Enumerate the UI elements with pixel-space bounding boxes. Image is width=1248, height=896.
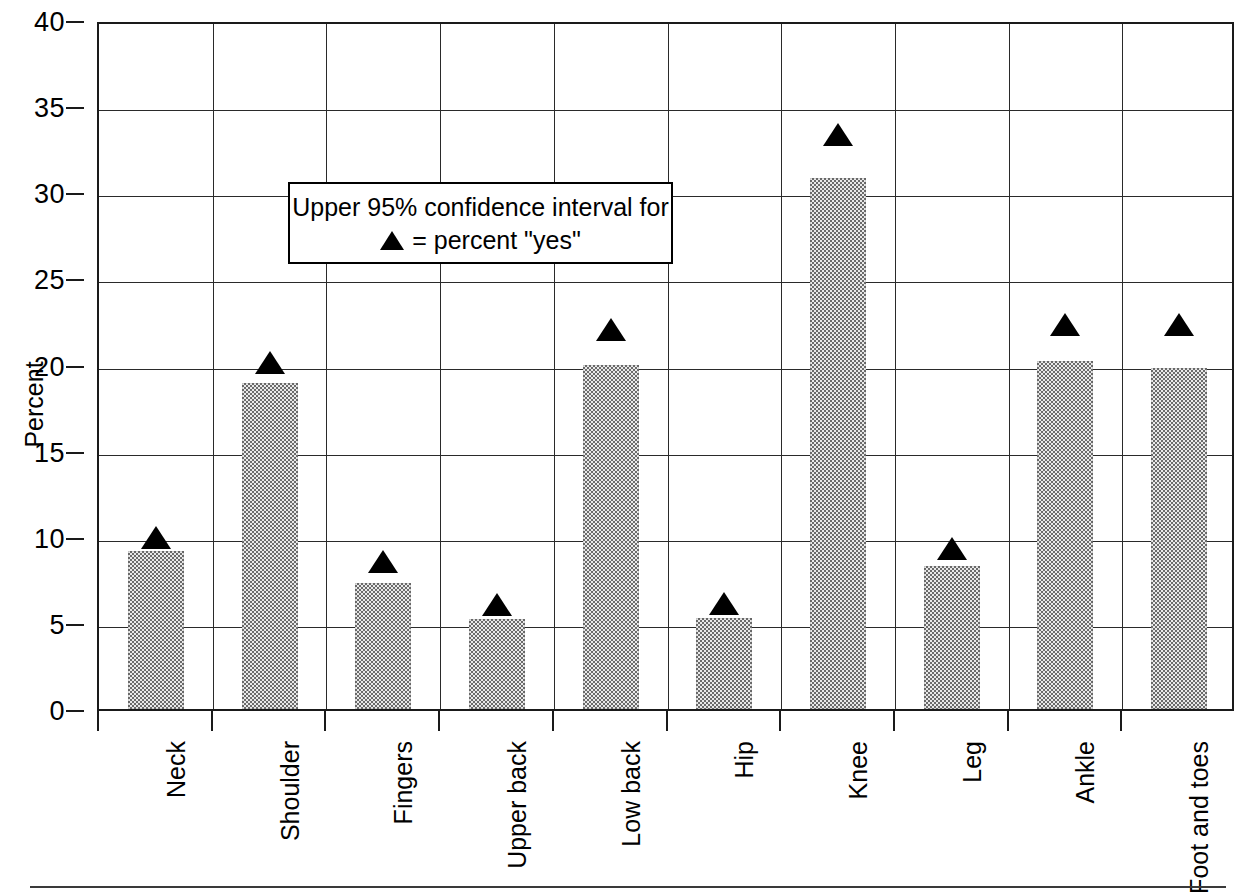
gridline-vertical xyxy=(213,24,214,709)
x-tick-label-foot-and-toes: Foot and toes xyxy=(1187,741,1212,894)
y-tick-mark xyxy=(66,538,84,540)
gridline-vertical xyxy=(668,24,669,709)
x-axis: NeckShoulderFingersUpper backLow backHip… xyxy=(97,711,1234,871)
bar-upper-back xyxy=(469,619,525,709)
y-tick-label: 20 xyxy=(34,353,65,380)
ci-marker-neck xyxy=(141,526,171,549)
x-tick-label-fingers: Fingers xyxy=(391,741,416,824)
legend: Upper 95% confidence interval for = perc… xyxy=(288,182,673,264)
x-tick-mark xyxy=(1120,711,1122,731)
bar-leg xyxy=(924,566,980,709)
x-tick-label-knee: Knee xyxy=(846,741,871,799)
bottom-divider xyxy=(30,886,1226,888)
y-tick-label: 40 xyxy=(34,9,65,36)
gridline-horizontal xyxy=(99,110,1232,111)
x-tick-label-shoulder: Shoulder xyxy=(278,741,303,841)
y-tick-label: 5 xyxy=(49,611,65,638)
gridline-vertical xyxy=(1122,24,1123,709)
y-tick-label: 15 xyxy=(34,439,65,466)
gridline-vertical xyxy=(1009,24,1010,709)
y-tick-label: 10 xyxy=(34,525,65,552)
ci-marker-fingers xyxy=(368,550,398,573)
x-tick-mark xyxy=(438,711,440,731)
bar-low-back xyxy=(583,365,639,710)
y-tick-mark xyxy=(66,710,84,712)
ci-marker-hip xyxy=(709,592,739,615)
gridline-vertical xyxy=(440,24,441,709)
y-tick-label: 35 xyxy=(34,95,65,122)
y-tick-mark xyxy=(66,107,84,109)
x-tick-label-upper-back: Upper back xyxy=(505,741,530,869)
plot-area: Upper 95% confidence interval for = perc… xyxy=(97,22,1234,711)
bar-knee xyxy=(810,178,866,709)
ci-marker-foot-and-toes xyxy=(1164,313,1194,336)
gridline-vertical xyxy=(895,24,896,709)
y-tick-label: 25 xyxy=(34,267,65,294)
bar-ankle xyxy=(1037,361,1093,709)
ci-marker-low-back xyxy=(596,318,626,341)
x-tick-mark xyxy=(552,711,554,731)
gridline-vertical xyxy=(554,24,555,709)
triangle-marker-icon xyxy=(380,231,404,250)
x-tick-label-hip: Hip xyxy=(732,741,757,779)
y-axis: 0510152025303540 xyxy=(0,0,97,896)
ci-marker-leg xyxy=(937,537,967,560)
x-tick-label-low-back: Low back xyxy=(619,741,644,847)
bar-hip xyxy=(696,618,752,709)
bar-foot-and-toes xyxy=(1151,368,1207,709)
x-tick-label-neck: Neck xyxy=(164,741,189,798)
y-tick-mark xyxy=(66,193,84,195)
bar-fingers xyxy=(355,583,411,709)
gridline-horizontal xyxy=(99,282,1232,283)
x-tick-mark xyxy=(1007,711,1009,731)
y-tick-label: 0 xyxy=(49,698,65,725)
y-tick-mark xyxy=(66,624,84,626)
legend-line-2-label: = percent "yes" xyxy=(412,225,581,255)
y-tick-mark xyxy=(66,279,84,281)
legend-line-2: = percent "yes" xyxy=(380,225,581,255)
bar-chart-figure: Percent 0510152025303540 Upper 95% confi… xyxy=(0,0,1248,896)
gridline-vertical xyxy=(781,24,782,709)
legend-line-1: Upper 95% confidence interval for xyxy=(292,192,669,222)
y-tick-label: 30 xyxy=(34,181,65,208)
x-tick-mark xyxy=(893,711,895,731)
x-tick-mark xyxy=(324,711,326,731)
y-tick-mark xyxy=(66,452,84,454)
gridline-vertical xyxy=(326,24,327,709)
x-tick-mark xyxy=(666,711,668,731)
x-tick-label-leg: Leg xyxy=(960,741,985,783)
y-tick-mark xyxy=(66,366,84,368)
y-tick-mark xyxy=(66,21,84,23)
bar-shoulder xyxy=(242,383,298,709)
ci-marker-ankle xyxy=(1050,313,1080,336)
x-tick-mark xyxy=(97,711,99,731)
x-tick-mark xyxy=(779,711,781,731)
x-tick-mark xyxy=(211,711,213,731)
x-tick-label-ankle: Ankle xyxy=(1073,741,1098,804)
ci-marker-shoulder xyxy=(255,351,285,374)
bar-neck xyxy=(128,551,184,709)
ci-marker-knee xyxy=(823,123,853,146)
ci-marker-upper-back xyxy=(482,593,512,616)
